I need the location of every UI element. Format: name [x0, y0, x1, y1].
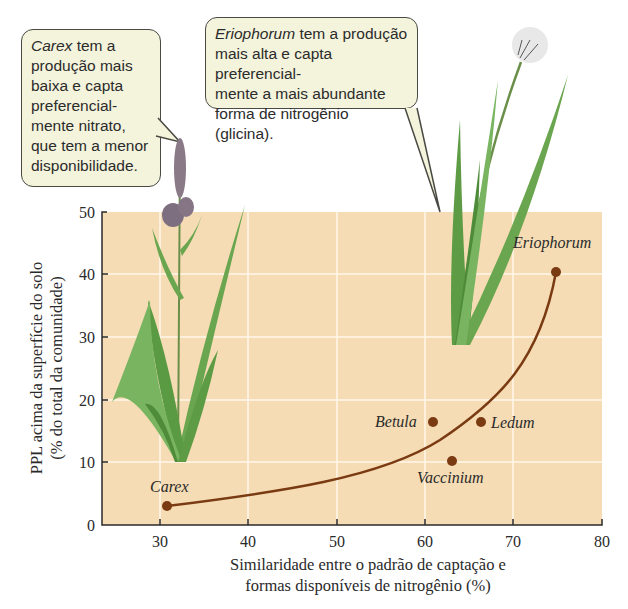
svg-text:(% do total da comunidade): (% do total da comunidade): [47, 276, 66, 459]
cotton-grass-seedhead: [512, 27, 548, 63]
y-axis-title: PPL acima da superfície do solo (% do to…: [27, 262, 66, 474]
svg-text:PPL acima da superfície do sol: PPL acima da superfície do solo: [27, 262, 46, 474]
point-ledum: [476, 417, 486, 427]
svg-text:60: 60: [417, 533, 433, 550]
svg-text:30: 30: [152, 533, 168, 550]
svg-text:40: 40: [79, 266, 95, 283]
label-betula: Betula: [375, 413, 417, 430]
svg-text:80: 80: [594, 533, 610, 550]
svg-text:50: 50: [329, 533, 345, 550]
label-ledum: Ledum: [490, 414, 535, 431]
chart-svg: 50 40 30 20 10 0 30 40 50 60 70 80 Simil…: [0, 0, 628, 609]
svg-text:10: 10: [79, 454, 95, 471]
label-carex: Carex: [150, 478, 189, 495]
point-carex: [162, 501, 172, 511]
svg-text:Similaridade entre o padrão de: Similaridade entre o padrão de captação …: [230, 555, 506, 574]
svg-text:70: 70: [505, 533, 521, 550]
x-axis-title: Similaridade entre o padrão de captação …: [230, 555, 506, 595]
point-vaccinium: [447, 456, 457, 466]
label-eriophorum: Eriophorum: [512, 234, 591, 252]
label-vaccinium: Vaccinium: [417, 469, 484, 486]
eriophorum-callout-pointer: [405, 108, 440, 212]
carex-callout-pointer: [156, 118, 180, 142]
svg-text:20: 20: [79, 392, 95, 409]
point-betula: [428, 417, 438, 427]
x-tick-labels: 30 40 50 60 70 80: [152, 533, 610, 550]
svg-text:0: 0: [87, 517, 95, 534]
svg-text:40: 40: [240, 533, 256, 550]
svg-text:formas disponíveis de nitrogên: formas disponíveis de nitrogênio (%): [245, 576, 491, 595]
svg-text:50: 50: [79, 204, 95, 221]
svg-text:30: 30: [79, 329, 95, 346]
y-tick-labels: 50 40 30 20 10 0: [79, 204, 95, 534]
point-eriophorum: [551, 267, 561, 277]
